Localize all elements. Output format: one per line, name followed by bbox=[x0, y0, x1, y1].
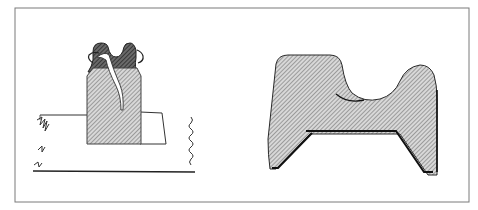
illustration-plate bbox=[0, 0, 478, 210]
left-figure bbox=[33, 43, 195, 172]
right-figure bbox=[268, 55, 437, 175]
profile-cross-section bbox=[268, 55, 437, 175]
